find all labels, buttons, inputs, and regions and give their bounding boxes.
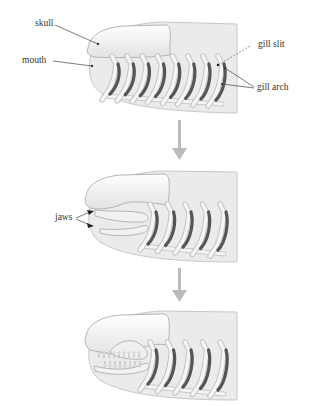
label-jaws: jaws: [55, 212, 72, 222]
label-gill-arch: gill arch: [257, 82, 288, 92]
label-gill-slit: gill slit: [258, 39, 285, 49]
diagram-canvas: [0, 0, 315, 406]
mouth-pointer-dot: [91, 65, 93, 67]
skull-shape: [87, 25, 170, 58]
skull-pointer-dot: [97, 43, 99, 45]
skull-pointer: [55, 25, 98, 44]
stage-1-jawless-head: [53, 22, 254, 113]
mouth-pointer: [53, 61, 92, 66]
label-skull: skull: [35, 18, 53, 28]
stage-3-toothed-jaws-head: [85, 311, 237, 400]
gill-slit-pointer-dot: [217, 64, 220, 67]
stage-2-early-jaws-head: [76, 171, 237, 262]
gill-arch-pointer-dot-b: [221, 83, 223, 85]
label-mouth: mouth: [22, 55, 46, 65]
jaws-pointer-upper: [76, 212, 90, 218]
arrow-down-2: [172, 268, 187, 302]
gill-arch-pointer-dot-a: [224, 67, 226, 69]
arrow-down-1: [172, 120, 187, 160]
